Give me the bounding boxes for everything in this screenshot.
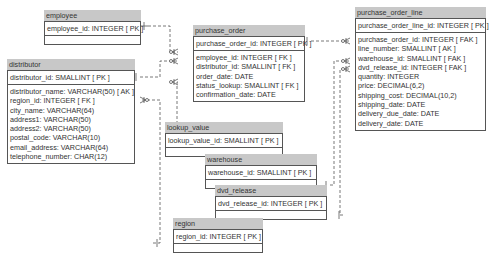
attribute: price: DECIMAL(6,2): [358, 81, 483, 90]
entity-title: employee: [44, 10, 141, 21]
attribute: purchase_order_id: INTEGER [ FAK ]: [358, 35, 483, 44]
entity-purchase-order-line[interactable]: purchase_order_line purchase_order_line_…: [355, 7, 486, 131]
attribute: postal_code: VARCHAR(10): [10, 133, 132, 142]
attribute: warehouse_id: SMALLINT [ FAK ]: [358, 54, 483, 63]
entity-lookup-value[interactable]: lookup_value lookup_value_id: SMALLINT […: [165, 122, 283, 157]
attribute: delivery_due_date: DATE: [358, 109, 483, 118]
attribute: shipping_cost: DECIMAL(10,2): [358, 91, 483, 100]
entity-distributor[interactable]: distributor distributor_id: SMALLINT [ P…: [7, 59, 135, 164]
attribute: confirmation_date: DATE: [196, 90, 302, 99]
entity-dvd-release[interactable]: dvd_release dvd_release_id: INTEGER [ PK…: [215, 185, 327, 220]
primary-key: distributor_id: SMALLINT [ PK ]: [8, 71, 134, 85]
attribute: shipping_date: DATE: [358, 100, 483, 109]
attribute: employee_id: INTEGER [ FK ]: [196, 53, 302, 62]
entity-employee[interactable]: employee employee_id: INTEGER [ PK ]: [44, 10, 141, 45]
entity-title: distributor: [7, 59, 135, 70]
attribute: region_id: INTEGER [ FK ]: [10, 96, 132, 105]
entity-title: purchase_order: [193, 25, 305, 36]
primary-key: purchase_order_id: INTEGER [ PK ]: [194, 37, 304, 51]
attribute: status_lookup: SMALLINT [ FK ]: [196, 81, 302, 90]
attribute: delivery_date: DATE: [358, 119, 483, 128]
entity-title: region: [173, 218, 263, 229]
attribute: dvd_release_id: INTEGER [ FAK ]: [358, 63, 483, 72]
attribute: city_name: VARCHAR(64): [10, 106, 132, 115]
attribute: order_date: DATE: [196, 72, 302, 81]
attribute: distributor_id: SMALLINT [ FK ]: [196, 62, 302, 71]
attribute: email_address: VARCHAR(64): [10, 143, 132, 152]
primary-key: warehouse_id: SMALLINT [ PK ]: [206, 166, 316, 180]
primary-key: region_id: INTEGER [ PK ]: [174, 230, 262, 244]
primary-key: employee_id: INTEGER [ PK ]: [45, 22, 140, 36]
attribute: address2: VARCHAR(50): [10, 124, 132, 133]
entity-title: purchase_order_line: [355, 7, 486, 18]
primary-key: dvd_release_id: INTEGER [ PK ]: [216, 197, 326, 211]
entity-purchase-order[interactable]: purchase_order purchase_order_id: INTEGE…: [193, 25, 305, 102]
attribute: telephone_number: CHAR(12): [10, 152, 132, 161]
attribute: quantity: INTEGER: [358, 72, 483, 81]
entity-title: lookup_value: [165, 122, 283, 133]
entity-region[interactable]: region region_id: INTEGER [ PK ]: [173, 218, 263, 253]
entity-warehouse[interactable]: warehouse warehouse_id: SMALLINT [ PK ]: [205, 154, 317, 189]
entity-title: warehouse: [205, 154, 317, 165]
attribute: distributor_name: VARCHAR(50) [ AK ]: [10, 87, 132, 96]
entity-title: dvd_release: [215, 185, 327, 196]
attribute: line_number: SMALLINT [ AK ]: [358, 44, 483, 53]
attribute: address1: VARCHAR(50): [10, 115, 132, 124]
primary-key: purchase_order_line_id: INTEGER [ PK ]: [356, 19, 485, 33]
primary-key: lookup_value_id: SMALLINT [ PK ]: [166, 134, 282, 148]
